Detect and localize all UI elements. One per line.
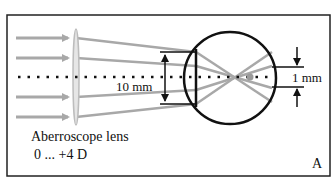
panel-label: A — [312, 156, 323, 171]
incoming-rays — [16, 38, 68, 117]
focus-point — [247, 74, 254, 81]
lens-power-label: 0 ... +4 D — [34, 147, 87, 162]
aberroscope-diagram: 10 mm 1 mm Aberroscope lens 0 ... +4 D A — [0, 0, 335, 181]
pupil-dimension-label: 10 mm — [116, 79, 152, 94]
diagram-canvas: 10 mm 1 mm Aberroscope lens 0 ... +4 D A — [0, 0, 335, 181]
lens-label: Aberroscope lens — [31, 129, 129, 144]
retina-dimension-label: 1 mm — [292, 70, 322, 85]
